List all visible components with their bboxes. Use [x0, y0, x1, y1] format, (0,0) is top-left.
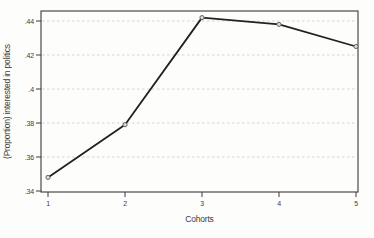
y-tick-label: .38: [25, 120, 34, 127]
y-tick-label: .34: [25, 188, 34, 195]
x-tick-label: 4: [277, 200, 281, 207]
line-chart-canvas: .34.36.38.4.42.4412345: [0, 0, 374, 238]
data-point: [46, 175, 50, 179]
x-axis-title: Cohorts: [41, 214, 358, 224]
x-tick-label: 3: [200, 200, 204, 207]
data-line: [48, 18, 356, 178]
y-tick-label: .44: [25, 18, 34, 25]
x-tick-label: 5: [354, 200, 358, 207]
plot-border: [41, 11, 358, 192]
y-tick-label: .4: [29, 86, 35, 93]
y-tick-label: .42: [25, 52, 34, 59]
x-tick-label: 2: [123, 200, 127, 207]
data-point: [200, 16, 204, 20]
figure: (Proportion) interested in politics .34.…: [0, 0, 374, 238]
x-tick-label: 1: [46, 200, 50, 207]
data-point: [277, 22, 281, 26]
data-point: [354, 44, 358, 48]
data-point: [123, 123, 127, 127]
y-tick-label: .36: [25, 154, 34, 161]
